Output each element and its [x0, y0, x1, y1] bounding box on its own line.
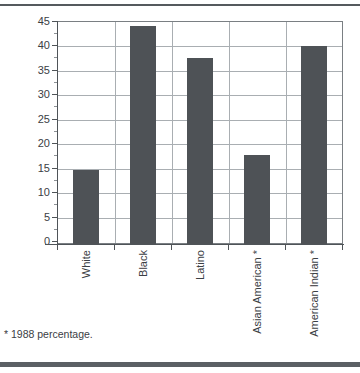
y-tick-label-0: 0 — [26, 236, 50, 247]
bar-latino[interactable] — [187, 58, 213, 244]
x-tick-label-white: White — [80, 250, 91, 278]
y-axis-labels: 45 40 35 30 25 20 15 10 5 0 — [22, 8, 50, 258]
bar-chart-figure: 45 40 35 30 25 20 15 10 5 0 — [0, 8, 360, 358]
y-tick-25 — [52, 119, 57, 120]
bar-american-indian[interactable] — [301, 46, 327, 244]
bar-asian-american[interactable] — [244, 155, 270, 244]
x-axis-spine — [45, 244, 344, 245]
x-label-slot-american-indian: American Indian * — [285, 248, 342, 348]
x-label-slot-latino: Latino — [171, 248, 228, 348]
bar-black[interactable] — [130, 26, 156, 244]
y-tick-5 — [52, 217, 57, 218]
bar-white[interactable] — [73, 170, 99, 244]
y-tick-label-5: 5 — [26, 212, 50, 223]
x-tick-label-latino: Latino — [194, 250, 205, 280]
y-tick-10 — [52, 192, 57, 193]
y-tick-0 — [52, 241, 57, 242]
y-tick-30 — [52, 94, 57, 95]
bottom-divider-band — [0, 362, 360, 367]
y-tick-label-35: 35 — [26, 65, 50, 76]
y-tick-minor-27 — [54, 106, 57, 107]
y-tick-45 — [52, 21, 57, 22]
y-tick-minor-2 — [54, 229, 57, 230]
y-tick-label-10: 10 — [26, 187, 50, 198]
y-tick-40 — [52, 45, 57, 46]
x-tick-label-black: Black — [137, 250, 148, 277]
y-tick-minor-12 — [54, 180, 57, 181]
y-tick-minor-22 — [54, 131, 57, 132]
y-tick-minor-17 — [54, 155, 57, 156]
x-label-slot-asian-american: Asian American * — [228, 248, 285, 348]
y-tick-15 — [52, 168, 57, 169]
y-tick-label-20: 20 — [26, 138, 50, 149]
x-tick-label-american-indian: American Indian * — [308, 250, 319, 337]
y-tick-minor-7 — [54, 204, 57, 205]
bars-layer — [57, 21, 343, 244]
y-tick-20 — [52, 143, 57, 144]
chart-footnote: * 1988 percentage. — [4, 328, 93, 340]
y-tick-35 — [52, 70, 57, 71]
y-tick-minor-32 — [54, 82, 57, 83]
y-tick-label-40: 40 — [26, 40, 50, 51]
y-tick-label-15: 15 — [26, 163, 50, 174]
y-tick-label-25: 25 — [26, 114, 50, 125]
y-tick-minor-42 — [54, 33, 57, 34]
y-tick-label-30: 30 — [26, 89, 50, 100]
y-tick-minor-37 — [54, 57, 57, 58]
x-label-slot-black: Black — [114, 248, 171, 348]
y-axis-spine — [57, 21, 58, 245]
top-divider-rule — [0, 4, 360, 6]
y-tick-label-45: 45 — [26, 16, 50, 27]
x-axis-labels: White Black Latino Asian American * Amer… — [57, 248, 343, 348]
x-tick-label-asian-american: Asian American * — [251, 250, 262, 334]
